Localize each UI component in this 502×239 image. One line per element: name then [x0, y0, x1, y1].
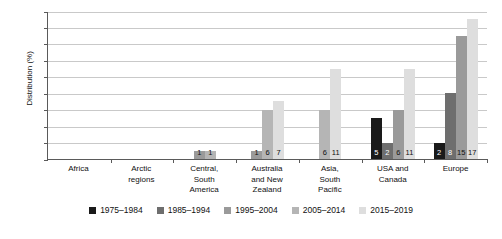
bar: 2 [434, 143, 445, 159]
x-axis-tick-mark [424, 159, 425, 163]
bar: 6 [393, 110, 404, 159]
bar-value-label: 6 [262, 148, 273, 157]
legend-label: 2015–2019 [370, 205, 413, 215]
bar-value-label: 1 [194, 148, 205, 157]
legend-swatch-icon [292, 207, 299, 214]
bar-group: 11 [173, 12, 236, 159]
bars: 52611 [362, 12, 425, 159]
plot-area: 024681012141618 1116761152611281517 [47, 12, 487, 160]
legend-label: 1995–2004 [235, 205, 278, 215]
legend-item[interactable]: 2005–2014 [292, 205, 346, 215]
x-axis-category-label: USA andCanada [361, 164, 424, 196]
bar-groups: 1116761152611281517 [48, 12, 487, 159]
bar-value-label: 6 [393, 148, 404, 157]
legend-swatch-icon [157, 207, 164, 214]
bar: 15 [456, 36, 467, 159]
x-axis-category-label: Europe [424, 164, 487, 196]
x-axis-tick-mark [111, 159, 112, 163]
bar: 11 [404, 69, 415, 159]
bar: 6 [319, 110, 330, 159]
legend-swatch-icon [224, 207, 231, 214]
x-axis-tick-mark [362, 159, 363, 163]
bar: 1 [251, 151, 262, 159]
bar-value-label: 15 [456, 148, 467, 157]
legend-item[interactable]: 1995–2004 [224, 205, 278, 215]
x-axis-category-label: Central,SouthAmerica [173, 164, 236, 196]
x-axis-category-label: Africa [47, 164, 110, 196]
bar: 6 [262, 110, 273, 159]
bar-group: 167 [236, 12, 299, 159]
bar-value-label: 6 [319, 148, 330, 157]
bar-value-label: 11 [404, 148, 415, 157]
y-axis-tick-mark [44, 160, 48, 161]
bar: 1 [205, 151, 216, 159]
x-axis-tick-mark [173, 159, 174, 163]
bar-value-label: 8 [445, 148, 456, 157]
legend-item[interactable]: 1985–1994 [157, 205, 211, 215]
x-axis-tick-mark [487, 159, 488, 163]
bar: 7 [273, 101, 284, 159]
x-axis-category-labels: AfricaArcticregionsCentral,SouthAmericaA… [47, 164, 487, 196]
bar: 11 [330, 69, 341, 159]
bar-value-label: 11 [330, 148, 341, 157]
legend-label: 1975–1984 [100, 205, 143, 215]
x-axis-tick-mark [236, 159, 237, 163]
legend-swatch-icon [359, 207, 366, 214]
bar-group [111, 12, 174, 159]
bar: 2 [382, 143, 393, 159]
legend-item[interactable]: 1975–1984 [89, 205, 143, 215]
bar-group: 52611 [362, 12, 425, 159]
legend-item[interactable]: 2015–2019 [359, 205, 413, 215]
bars [111, 12, 174, 159]
x-axis-category-label: Australiaand NewZealand [236, 164, 299, 196]
bar: 1 [194, 151, 205, 159]
x-axis-category-label: Arcticregions [110, 164, 173, 196]
bar-group [48, 12, 111, 159]
bar-group: 611 [299, 12, 362, 159]
legend-label: 2005–2014 [303, 205, 346, 215]
x-axis-tick-mark [299, 159, 300, 163]
bar-value-label: 17 [467, 148, 478, 157]
bars: 281517 [424, 12, 487, 159]
bar-value-label: 5 [371, 148, 382, 157]
bar: 8 [445, 93, 456, 159]
bar-value-label: 2 [382, 148, 393, 157]
bars: 611 [299, 12, 362, 159]
bars [48, 12, 111, 159]
bars: 11 [173, 12, 236, 159]
bar: 5 [371, 118, 382, 159]
gridline [48, 160, 487, 161]
bar-value-label: 1 [205, 148, 216, 157]
bar-value-label: 7 [273, 148, 284, 157]
legend-label: 1985–1994 [168, 205, 211, 215]
bar-value-label: 2 [434, 148, 445, 157]
bar-group: 281517 [424, 12, 487, 159]
bar-value-label: 1 [251, 148, 262, 157]
x-axis-category-label: Asia,SouthPacific [298, 164, 361, 196]
bar: 17 [467, 19, 478, 159]
bar-chart: Distribution (%) 024681012141618 1116761… [0, 0, 502, 239]
bars: 167 [236, 12, 299, 159]
y-axis-title: Distribution (%) [25, 19, 34, 139]
legend-swatch-icon [89, 207, 96, 214]
legend: 1975–19841985–19941995–20042005–20142015… [0, 205, 502, 215]
